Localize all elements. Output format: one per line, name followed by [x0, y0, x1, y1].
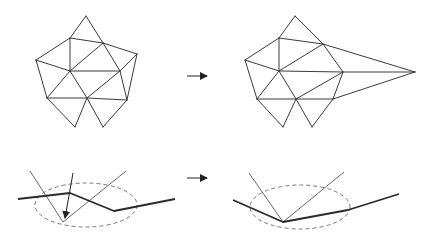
neighborhood-ellipse: [250, 185, 350, 229]
mesh-edge: [47, 71, 70, 98]
mesh-edge: [279, 71, 296, 99]
deformed-mesh: [245, 16, 415, 127]
boundary-polyline: [233, 194, 399, 222]
mesh-edge: [87, 98, 127, 100]
mesh-edge: [333, 72, 415, 99]
mesh-edge: [120, 71, 127, 100]
mesh-edge: [312, 99, 333, 127]
mesh-edge: [103, 100, 127, 127]
transition-arrows: [187, 76, 207, 178]
mesh-edge: [87, 71, 120, 98]
mesh-edge: [120, 54, 137, 71]
mesh-edge: [245, 38, 279, 60]
mesh-edge: [323, 44, 415, 72]
mesh-edge: [70, 43, 103, 71]
mesh-edge: [333, 72, 343, 99]
mesh-edge: [36, 60, 70, 71]
mesh-edge: [36, 38, 70, 60]
incident-edge: [283, 172, 344, 222]
neighborhood-ellipse: [35, 183, 137, 227]
mesh-edge: [323, 44, 343, 72]
mesh-edge: [70, 71, 87, 98]
mesh-edge: [75, 98, 87, 127]
mesh-edge: [245, 60, 257, 99]
mesh-edge: [283, 99, 296, 127]
mesh-edge: [257, 71, 279, 99]
original-mesh: [36, 16, 137, 127]
mesh-edge: [245, 60, 279, 71]
boundary-polyline: [18, 193, 175, 211]
diagram-canvas: [0, 0, 432, 241]
mesh-edge: [47, 98, 75, 127]
mesh-edge: [70, 16, 86, 38]
mesh-edge: [279, 71, 343, 72]
mesh-edge: [36, 60, 47, 98]
mesh-edge: [87, 98, 103, 127]
vertex-move-arrow: [65, 173, 73, 218]
before-vertex-move-detail: [18, 171, 175, 227]
mesh-edge: [295, 16, 323, 44]
mesh-edge: [86, 16, 103, 43]
mesh-edge: [257, 99, 283, 127]
mesh-edge: [127, 54, 137, 100]
after-vertex-move-detail: [233, 172, 399, 229]
mesh-edge: [296, 99, 312, 127]
mesh-edge: [279, 38, 323, 44]
mesh-edge: [279, 16, 295, 38]
mesh-edge: [279, 44, 323, 71]
mesh-edge: [70, 38, 103, 43]
mesh-edge: [296, 72, 343, 99]
